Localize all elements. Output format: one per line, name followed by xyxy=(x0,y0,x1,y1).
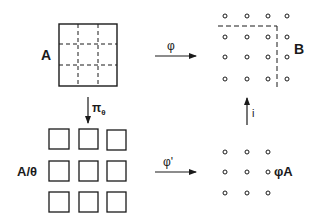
label-phi-prime: φ' xyxy=(163,156,173,168)
label-a-quotient: A/θ xyxy=(17,165,37,178)
diagram-canvas xyxy=(0,0,315,224)
label-phi: φ xyxy=(167,40,175,52)
node-b-dot-grid xyxy=(223,14,289,81)
label-inclusion: i xyxy=(252,108,254,119)
node-phi-a-dot-grid xyxy=(223,150,270,195)
node-a-quotient-squares xyxy=(49,129,126,212)
label-theta-subscript: θ xyxy=(101,108,105,117)
label-pi-theta: πθ xyxy=(92,102,106,117)
label-phi-a: φA xyxy=(274,165,293,178)
label-pi: π xyxy=(92,101,101,115)
label-a: A xyxy=(41,48,51,62)
node-a-grid xyxy=(59,24,117,86)
label-b: B xyxy=(294,42,304,56)
